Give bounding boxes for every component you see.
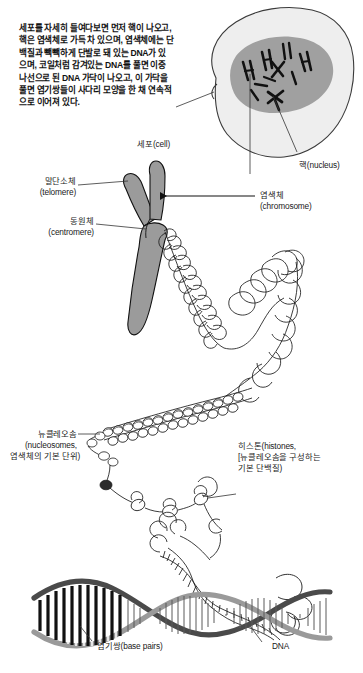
label-chromosome-en: (chromosome) xyxy=(260,201,312,212)
label-centromere-en: (centromere) xyxy=(18,227,94,238)
label-cell: 세포(cell) xyxy=(110,139,170,150)
label-nucleosome-line1: 뉴클레오솜 xyxy=(14,429,77,440)
figure-page: 세포를 자세히 들여다보면 먼저 핵이 나오고, 핵은 염색체로 가득 차 있으… xyxy=(0,0,363,673)
label-histone-line2: [뉴클레오솜을 구성하는 xyxy=(238,452,321,463)
label-centromere-ko: 동원체 xyxy=(36,216,94,227)
label-telomere-ko: 말단소체 xyxy=(18,176,76,187)
label-nucleus: 핵(nucleus) xyxy=(299,160,340,171)
label-dna: DNA xyxy=(272,641,289,652)
label-telomere-en: (telomere) xyxy=(12,187,76,198)
label-chromosome-ko: 염색체 xyxy=(260,190,284,201)
label-nucleosome-line3: 염색체의 기본 단위) xyxy=(2,451,80,462)
label-base-pairs: 염기쌍(base pairs) xyxy=(97,641,163,652)
label-histone-line3: 기본 단백질) xyxy=(238,463,282,474)
label-histone-line1: 히스톤(histones, xyxy=(238,441,296,452)
chromatid-arm-upper-right xyxy=(149,161,165,220)
intro-paragraph: 세포를 자세히 들여다보면 먼저 핵이 나오고, 핵은 염색체로 가득 차 있으… xyxy=(19,22,191,109)
label-nucleosome-line2: (nucleosomes, xyxy=(6,440,77,451)
